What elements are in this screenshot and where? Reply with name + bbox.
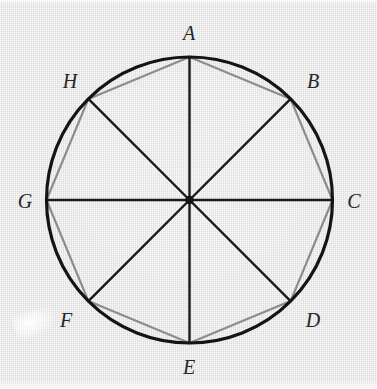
radius-line-h	[88, 99, 189, 200]
vertex-label-b: B	[307, 71, 319, 91]
radius-line-d	[190, 200, 291, 301]
vertex-label-d: D	[306, 310, 320, 330]
radius-line-b	[190, 99, 291, 200]
vertex-label-c: C	[347, 191, 360, 211]
vertex-label-e: E	[183, 357, 195, 377]
vertex-label-f: F	[60, 310, 72, 330]
radius-line-f	[88, 200, 189, 301]
vertex-label-h: H	[63, 71, 77, 91]
geometry-figure: ABCDEFGH	[0, 0, 377, 389]
vertex-label-a: A	[183, 23, 195, 43]
vertex-label-g: G	[18, 191, 32, 211]
center-point-dot	[185, 196, 193, 204]
circle-diagram-svg	[0, 0, 377, 389]
